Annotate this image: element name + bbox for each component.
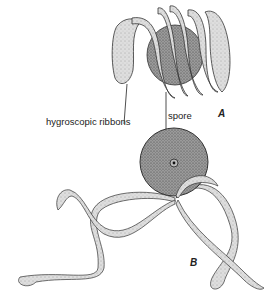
spore-diagram: hygroscopic ribbons spore A B [0,0,269,297]
spore-nucleus [173,162,176,165]
label-panel-a: A [217,108,225,119]
panel-b-spore-extended [19,128,264,289]
label-spore: spore [168,110,192,121]
label-hygroscopic-ribbons: hygroscopic ribbons [46,116,131,127]
ribbon-extended-left [19,192,175,286]
ribbon-left-hanging [112,19,140,84]
label-panel-b: B [190,257,197,268]
panel-a-spore-coiled [112,6,230,98]
ribbon-extended-right [176,185,238,289]
